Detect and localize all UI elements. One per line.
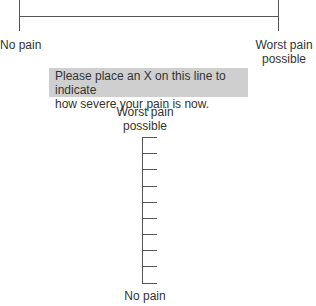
vertical-tick <box>142 202 157 203</box>
instruction-box: Please place an X on this line to indica… <box>49 68 248 97</box>
vertical-top-label-line1: Worst pain <box>113 105 177 119</box>
instruction-line1: Please place an X on this line to indica… <box>55 69 248 97</box>
vertical-tick <box>142 218 157 219</box>
horizontal-scale-left-endcap <box>19 0 20 31</box>
vertical-tick <box>142 266 157 267</box>
vertical-top-label-line2: possible <box>113 119 177 133</box>
vertical-tick <box>142 250 157 251</box>
horizontal-right-label-line2: possible <box>252 52 316 66</box>
vertical-bottom-label: No pain <box>120 289 170 303</box>
vertical-tick <box>142 169 157 170</box>
vertical-scale-line[interactable] <box>142 137 143 284</box>
vertical-tick <box>142 137 157 138</box>
horizontal-right-label-line1: Worst pain <box>252 38 316 52</box>
vertical-tick <box>142 283 157 284</box>
horizontal-right-label: Worst pain possible <box>252 38 316 66</box>
vertical-tick <box>142 186 157 187</box>
horizontal-scale-right-endcap <box>278 0 279 31</box>
horizontal-scale-line[interactable] <box>19 16 279 17</box>
vertical-tick <box>142 153 157 154</box>
vertical-tick <box>142 234 157 235</box>
horizontal-left-label: No pain <box>0 38 42 52</box>
vertical-top-label: Worst pain possible <box>113 105 177 133</box>
